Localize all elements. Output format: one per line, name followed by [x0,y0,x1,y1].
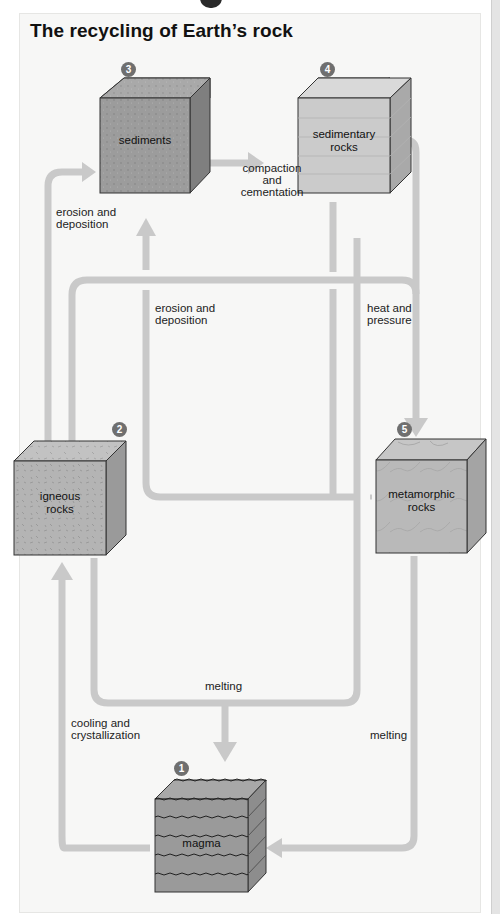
cube-magma [155,779,266,892]
label-erosion-left-2: deposition [56,218,108,231]
label-cooling-2: crystallization [71,729,140,742]
arrowhead-to-magma-right [266,838,282,858]
arrow-magma-to-igneous [62,578,150,848]
label-igneous-1: igneous [14,490,106,503]
label-heat-2: pressure [367,314,412,327]
arrowhead-to-sediments-bottom [136,218,156,236]
label-melting-right: melting [370,729,407,742]
label-metamorphic-1: metamorphic [376,488,467,501]
stage-badge-1: 1 [174,761,189,776]
arrow-melting-loop [94,238,357,703]
label-melting-center: melting [205,680,242,693]
stage-badge-4: 4 [320,62,335,77]
arrowhead-to-igneous [51,562,73,580]
stage-badge-2: 2 [112,422,127,437]
label-sediments: sediments [100,134,190,147]
label-magma: magma [155,837,248,850]
label-erosion-center-2: deposition [155,314,207,327]
label-sedimentary-1: sedimentary [298,128,390,141]
label-sedimentary-2: rocks [298,141,390,154]
label-metamorphic-2: rocks [376,501,467,514]
arrowhead-to-sediments-left [82,162,96,182]
stage-badge-5: 5 [397,422,412,437]
label-compaction-3: cementation [222,186,322,199]
label-igneous-2: rocks [14,503,106,516]
stage-badge-3: 3 [121,62,136,77]
arrowhead-to-magma-top [213,742,237,762]
